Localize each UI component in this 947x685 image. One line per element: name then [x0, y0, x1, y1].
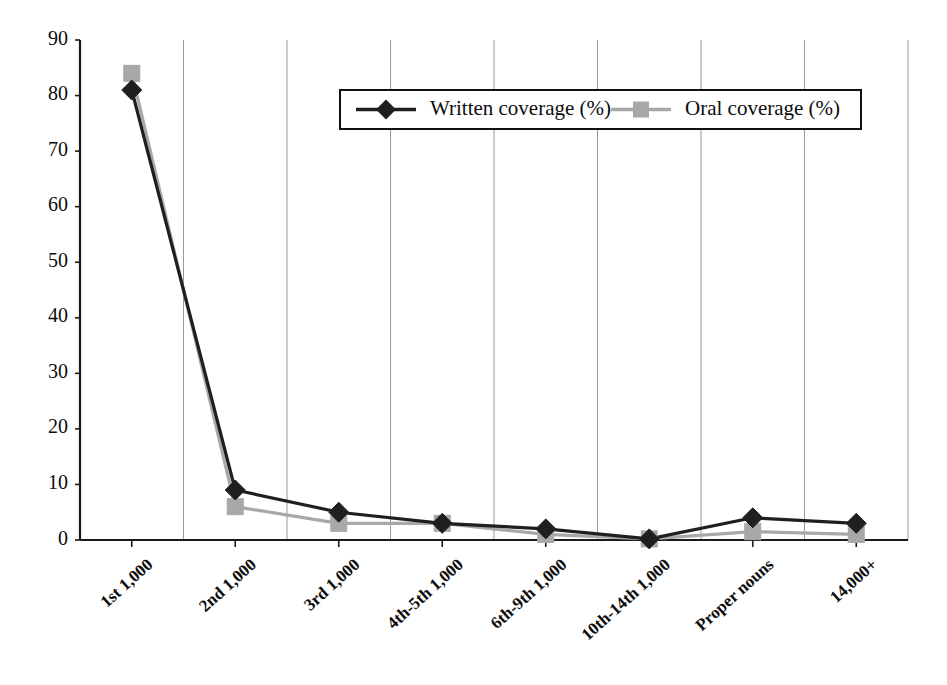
- x-tick-label: 10th-14th 1,000: [578, 555, 674, 644]
- y-tick-label: 70: [48, 138, 68, 160]
- line-chart: 0102030405060708090 1st 1,0002nd 1,0003r…: [0, 0, 947, 685]
- x-axis-tick-labels: 1st 1,0002nd 1,0003rd 1,0004th-5th 1,000…: [97, 540, 881, 644]
- y-tick-label: 20: [48, 415, 68, 437]
- x-tick-label: 4th-5th 1,000: [383, 555, 467, 633]
- chart-legend: Written coverage (%)Oral coverage (%): [340, 90, 861, 129]
- y-tick-label: 40: [48, 304, 68, 326]
- x-tick-label: 14,000+: [826, 555, 881, 607]
- square-marker: [633, 102, 649, 118]
- legend-label: Written coverage (%): [430, 96, 611, 120]
- legend-label: Oral coverage (%): [685, 96, 840, 120]
- x-tick-label: 3rd 1,000: [300, 555, 363, 615]
- y-tick-label: 80: [48, 82, 68, 104]
- x-tick-label: 1st 1,000: [97, 555, 157, 611]
- y-tick-label: 90: [48, 27, 68, 49]
- square-marker: [227, 499, 243, 515]
- x-tick-label: 2nd 1,000: [195, 555, 260, 616]
- y-tick-label: 0: [58, 527, 68, 549]
- y-tick-label: 60: [48, 193, 68, 215]
- y-axis-tick-labels: 0102030405060708090: [48, 27, 80, 549]
- square-marker: [124, 65, 140, 81]
- y-tick-label: 30: [48, 360, 68, 382]
- x-tick-label: 6th-9th 1,000: [487, 555, 571, 633]
- chart-canvas: 0102030405060708090 1st 1,0002nd 1,0003r…: [0, 0, 947, 685]
- y-tick-label: 50: [48, 249, 68, 271]
- x-tick-label: Proper nouns: [692, 555, 778, 635]
- y-tick-label: 10: [48, 471, 68, 493]
